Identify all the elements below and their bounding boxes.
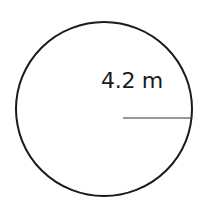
circle-outline xyxy=(16,22,192,196)
radius-label: 4.2 m xyxy=(101,68,163,94)
circle-diagram: 4.2 m xyxy=(0,0,206,206)
circle-svg xyxy=(0,0,206,206)
